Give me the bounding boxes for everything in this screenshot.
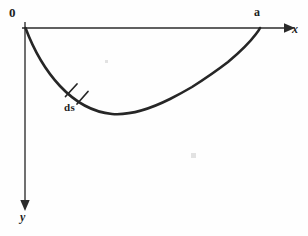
endpoint-label-a: a: [254, 6, 260, 18]
scan-speck-artifact-2: [105, 60, 108, 63]
arc-element-label-ds: ds: [64, 102, 75, 113]
scan-speck-artifact: [191, 153, 196, 158]
ds-tick-end: [77, 92, 88, 105]
figure-canvas: 0 a x y ds: [0, 0, 308, 236]
origin-label: 0: [9, 6, 16, 19]
diagram-svg: [0, 0, 308, 236]
x-axis-label: x: [292, 23, 298, 35]
ds-tick-start: [66, 84, 78, 97]
brachistochrone-curve: [26, 28, 261, 114]
y-axis-label: y: [20, 211, 25, 223]
